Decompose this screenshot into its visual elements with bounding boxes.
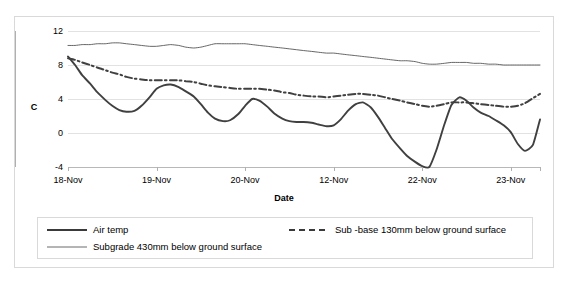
legend-entry-air-temp: Air temp <box>46 223 128 237</box>
x-tick-label: 22-Nov <box>408 175 437 185</box>
x-axis-tick-marks <box>68 167 540 175</box>
y-tick-label: 12 <box>53 26 63 36</box>
x-tick-mark <box>68 167 69 171</box>
x-tick-mark <box>157 167 158 171</box>
y-tick-label: -4 <box>55 162 63 172</box>
x-tick-mark <box>334 167 335 171</box>
plot-area <box>68 31 540 167</box>
x-axis-title: Date <box>15 193 553 203</box>
legend-swatch-sub-base <box>288 224 330 236</box>
x-tick-mark <box>422 167 423 171</box>
series-lines <box>68 31 540 167</box>
x-tick-mark <box>245 167 246 171</box>
x-tick-label: 12-Nov <box>319 175 348 185</box>
y-tick-label: 4 <box>58 94 63 104</box>
x-tick-label: 23-Nov <box>496 175 525 185</box>
x-tick-mark <box>540 167 541 171</box>
x-tick-label: 20-Nov <box>231 175 260 185</box>
x-tick-label: 18-Nov <box>53 175 82 185</box>
legend-swatch-air-temp <box>46 224 88 236</box>
y-tick-label: 0 <box>58 128 63 138</box>
legend-label-subgrade: Subgrade 430mm below ground surface <box>93 242 262 252</box>
series-line <box>68 43 540 65</box>
chart-figure: C 12840-4 18-Nov19-Nov20-Nov12-Nov22-Nov… <box>14 16 554 268</box>
y-axis-line <box>15 31 16 167</box>
series-line <box>68 58 540 107</box>
legend-swatch-subgrade <box>46 241 88 253</box>
legend-label-air-temp: Air temp <box>93 225 128 235</box>
chart-legend: Air temp Sub -base 130mm below ground su… <box>37 217 533 259</box>
x-axis-tick-labels: 18-Nov19-Nov20-Nov12-Nov22-Nov23-Nov <box>68 175 540 189</box>
y-axis-tick-labels: 12840-4 <box>35 17 63 195</box>
x-tick-mark <box>511 167 512 171</box>
legend-label-sub-base: Sub -base 130mm below ground surface <box>335 225 506 235</box>
x-tick-label: 19-Nov <box>142 175 171 185</box>
legend-entry-subgrade: Subgrade 430mm below ground surface <box>46 240 262 254</box>
plot-block: C 12840-4 18-Nov19-Nov20-Nov12-Nov22-Nov… <box>15 17 553 195</box>
y-tick-label: 8 <box>58 60 63 70</box>
series-line <box>68 57 540 168</box>
legend-entry-sub-base: Sub -base 130mm below ground surface <box>288 223 506 237</box>
